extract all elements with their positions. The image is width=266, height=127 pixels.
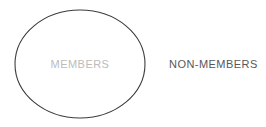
- non-members-label: NON-MEMBERS: [169, 58, 258, 71]
- set-diagram: MEMBERS NON-MEMBERS: [0, 0, 266, 127]
- members-label: MEMBERS: [14, 58, 146, 71]
